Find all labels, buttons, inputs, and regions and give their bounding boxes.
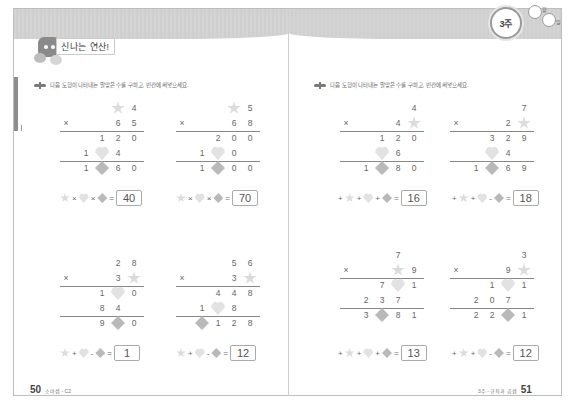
heart-icon (95, 146, 109, 160)
digit: 3 (228, 273, 240, 283)
answer-box[interactable]: 18 (513, 190, 539, 206)
digit: 0 (128, 163, 140, 173)
diamond-icon (382, 193, 392, 203)
operator: = (225, 194, 230, 203)
operator: + (471, 349, 476, 358)
page-number-right: 51 (521, 384, 532, 395)
star-icon (345, 348, 355, 358)
problem-row-p2: 84 (60, 301, 144, 316)
digit: 1 (80, 148, 92, 158)
multiplication-problem: 28×3108490 (60, 256, 144, 331)
diamond-icon (501, 308, 515, 322)
operator: - (489, 194, 492, 203)
times-sign: × (60, 118, 72, 128)
operator: × (72, 194, 77, 203)
digit: 8 (392, 163, 404, 173)
digit: 7 (392, 250, 404, 260)
star-icon (459, 348, 469, 358)
diamond-icon (494, 348, 504, 358)
problem-row-res: 128 (176, 316, 260, 331)
diamond-icon (211, 348, 221, 358)
day-circle[interactable] (542, 13, 556, 27)
heart-icon (195, 348, 205, 358)
answer-box[interactable]: 12 (513, 345, 539, 361)
problem-row-p2: 14 (60, 146, 144, 161)
digit: 6 (392, 148, 404, 158)
problem-row-top: 3 (450, 248, 534, 263)
digit: 0 (128, 288, 140, 298)
operator: × (207, 194, 212, 203)
digit: 7 (518, 103, 530, 113)
heart-icon (363, 348, 373, 358)
heart-icon (79, 193, 89, 203)
digit: 4 (112, 148, 124, 158)
star-icon (176, 348, 186, 358)
digit: 9 (518, 163, 530, 173)
digit: 2 (392, 133, 404, 143)
shape-equation: +-=1 (60, 345, 140, 361)
problem-row-p1: 11 (450, 278, 534, 293)
problem-row-res: 381 (340, 308, 424, 323)
answer-box[interactable]: 70 (232, 190, 258, 206)
footer-right-label: 3주 - 규칙과 곱셈 (478, 387, 517, 394)
star-icon (345, 193, 355, 203)
digit: 2 (502, 118, 514, 128)
month-circle[interactable] (528, 5, 542, 19)
problem-row-mult: ×9 (450, 263, 534, 278)
star-icon (459, 193, 469, 203)
answer-box[interactable]: 13 (401, 345, 427, 361)
problem-row-top: 4 (340, 101, 424, 116)
digit: 1 (360, 163, 372, 173)
digit: 1 (96, 133, 108, 143)
heart-icon (211, 301, 225, 315)
problem-row-p2: 6 (340, 146, 424, 161)
digit: 7 (376, 280, 388, 290)
heart-icon (79, 348, 89, 358)
digit: 4 (502, 148, 514, 158)
operator: + (452, 194, 457, 203)
answer-box[interactable]: 12 (230, 345, 256, 361)
diamond-icon (111, 316, 125, 330)
times-sign: × (450, 118, 462, 128)
problem-row-top: 5 (176, 101, 260, 116)
footer-left-label: 소마셈 - C2 (45, 387, 71, 394)
digit: 9 (96, 318, 108, 328)
answer-box[interactable]: 16 (401, 190, 427, 206)
multiplication-problem: 3×911207221 (450, 248, 534, 323)
digit: 3 (376, 295, 388, 305)
multiplication-problem: 7×971237381 (340, 248, 424, 323)
digit: 0 (228, 163, 240, 173)
problem-row-p1: 448 (176, 286, 260, 301)
problem-row-p1: 120 (340, 131, 424, 146)
star-icon (517, 263, 531, 277)
operator: + (375, 349, 380, 358)
star-icon (227, 101, 241, 115)
digit: 2 (212, 133, 224, 143)
answer-box[interactable]: 1 (114, 345, 140, 361)
answer-box[interactable]: 40 (116, 190, 142, 206)
shape-equation: +++=16 (338, 190, 427, 206)
digit: 4 (128, 103, 140, 113)
heart-icon (485, 146, 499, 160)
operator: + (452, 349, 457, 358)
digit: 3 (112, 273, 124, 283)
footer-left: 50 소마셈 - C2 (30, 384, 71, 395)
digit: 7 (502, 295, 514, 305)
problem-row-res: 180 (340, 161, 424, 176)
digit: 1 (518, 280, 530, 290)
operator: - (489, 349, 492, 358)
digit: 1 (408, 280, 420, 290)
diamond-icon (494, 193, 504, 203)
heart-icon (477, 348, 487, 358)
digit: 0 (408, 163, 420, 173)
sprout-icon (34, 82, 46, 89)
digit: 2 (112, 258, 124, 268)
operator: + (471, 194, 476, 203)
problem-row-p1: 71 (340, 278, 424, 293)
shape-equation: ××=70 (176, 190, 258, 206)
instruction-text: 다음 도형이 나타내는 알맞은 수를 구하고, 빈칸에 써넣으세요. (50, 81, 189, 89)
problem-row-p1: 10 (60, 286, 144, 301)
diamond-icon (485, 161, 499, 175)
operator: + (338, 349, 343, 358)
digit: 1 (196, 303, 208, 313)
